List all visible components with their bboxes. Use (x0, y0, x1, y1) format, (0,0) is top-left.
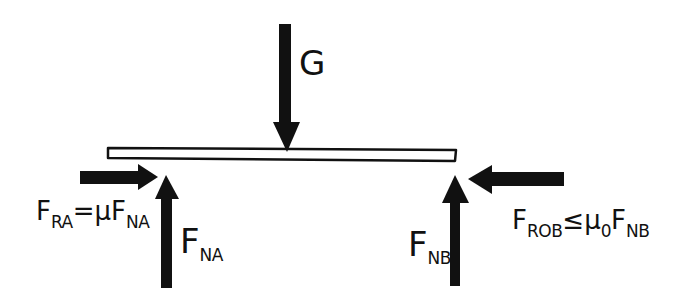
diagram-graphics (0, 0, 691, 306)
force-g-symbol: G (299, 43, 325, 83)
force-label-frob-inequality: FROB≤μ0FNB (512, 207, 649, 233)
fra-subscript: RA (51, 212, 73, 232)
fra-symbol: F (36, 196, 51, 226)
frob-rhs-subscript: NB (626, 221, 649, 241)
frob-relation: ≤ (562, 205, 584, 235)
fra-relation: = (73, 196, 95, 226)
free-body-diagram: G FRA=μFNA FNA FNB FROB≤μ0FNB (0, 0, 691, 306)
fra-rhs-symbol: F (111, 196, 126, 226)
fna-symbol: F (180, 221, 200, 261)
frob-subscript: ROB (527, 221, 562, 241)
fra-coefficient: μ (95, 196, 112, 226)
arrow-right-icon (80, 164, 158, 190)
beam (108, 148, 456, 161)
force-label-fra-equation: FRA=μFNA (36, 198, 149, 224)
frob-coefficient-subscript: 0 (601, 221, 611, 241)
frob-symbol: F (512, 205, 527, 235)
fnb-subscript: NB (428, 248, 451, 268)
force-label-g: G (299, 46, 325, 80)
fna-subscript: NA (200, 245, 223, 265)
force-label-fna: FNA (180, 224, 223, 258)
force-label-fnb: FNB (408, 227, 451, 261)
fnb-symbol: F (408, 224, 428, 264)
arrow-up-icon (155, 175, 179, 288)
arrow-down-icon (273, 24, 300, 152)
arrow-left-icon (468, 165, 564, 194)
frob-rhs-symbol: F (611, 205, 626, 235)
fra-rhs-subscript: NA (126, 212, 149, 232)
frob-coefficient: μ (584, 205, 601, 235)
